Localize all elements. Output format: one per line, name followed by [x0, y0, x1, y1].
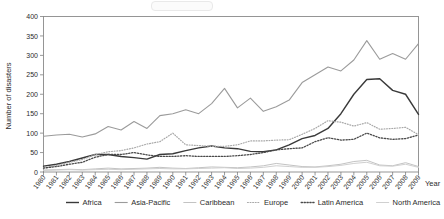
x-tick-label: 1983 [70, 174, 85, 191]
x-tick-label: 1984 [83, 174, 98, 191]
chart-legend: AfricaAsia-PacificCaribbeanEuropeLatin A… [66, 198, 441, 207]
x-tick-label: 1985 [96, 174, 111, 191]
legend-label: North America [393, 198, 441, 207]
y-tick-label: 250 [26, 71, 38, 78]
x-tick-label: 2003 [329, 174, 344, 191]
legend-label: Africa [83, 198, 103, 207]
x-tick-label: 2007 [381, 174, 396, 191]
series-layer [44, 41, 419, 171]
x-tick-label: 1997 [252, 174, 267, 191]
x-tick-label: 1999 [277, 174, 292, 191]
x-tick-label: 1987 [122, 174, 137, 191]
legend-label: Latin America [318, 198, 364, 207]
x-tick-label: 2005 [355, 174, 370, 191]
y-tick-label: 100 [26, 130, 38, 137]
x-tick-label: 2001 [303, 174, 318, 191]
x-axis-title: Year [425, 179, 441, 188]
legend-label: Europe [264, 198, 288, 207]
x-tick-label: 1988 [135, 174, 150, 191]
x-tick-label: 1990 [161, 174, 176, 191]
x-tick-label: 1989 [148, 174, 163, 191]
legend-item-europe[interactable]: Europe [247, 198, 288, 207]
y-axis-title: Number of disasters [4, 62, 13, 129]
legend-item-africa[interactable]: Africa [66, 198, 103, 207]
x-tick-label: 2004 [342, 174, 357, 191]
x-tick-label: 1991 [174, 174, 189, 191]
legend-label: Caribbean [200, 198, 235, 207]
legend-item-north-america[interactable]: North America [376, 198, 441, 207]
y-axis-tick-group: 050100150200250300350400 [26, 13, 43, 176]
x-tick-label: 1995 [226, 174, 241, 191]
x-tick-label: 1993 [200, 174, 215, 191]
x-tick-label: 2009 [407, 174, 422, 191]
x-axis-tick-group: 1980198119821983198419851986198719881989… [32, 172, 422, 190]
y-tick-label: 50 [30, 149, 38, 156]
disasters-line-chart: 050100150200250300350400 Number of disas… [0, 0, 444, 219]
x-tick-label: 1998 [264, 174, 279, 191]
y-tick-label: 300 [26, 52, 38, 59]
x-tick-label: 1994 [213, 174, 228, 191]
x-tick-label: 1982 [58, 174, 73, 191]
legend-item-asia-pacific[interactable]: Asia-Pacific [115, 198, 171, 207]
series-line-north-america [44, 162, 419, 170]
legend-item-latin-america[interactable]: Latin America [301, 198, 364, 207]
series-line-asia-pacific [44, 41, 419, 137]
x-tick-label: 2008 [394, 174, 409, 191]
y-tick-label: 400 [26, 13, 38, 20]
x-tick-label: 1981 [45, 174, 60, 191]
x-tick-label: 2006 [368, 174, 383, 191]
x-tick-label: 1992 [187, 174, 202, 191]
y-tick-label: 200 [26, 91, 38, 98]
y-tick-label: 150 [26, 110, 38, 117]
y-tick-label: 350 [26, 33, 38, 40]
x-tick-label: 1986 [109, 174, 124, 191]
x-tick-label: 2000 [290, 174, 305, 191]
y-tick-label: 0 [34, 169, 38, 176]
x-tick-label: 1980 [32, 174, 47, 191]
x-tick-label: 1996 [239, 174, 254, 191]
legend-label: Asia-Pacific [131, 198, 170, 207]
x-tick-label: 2002 [316, 174, 331, 191]
legend-item-caribbean[interactable]: Caribbean [183, 198, 234, 207]
